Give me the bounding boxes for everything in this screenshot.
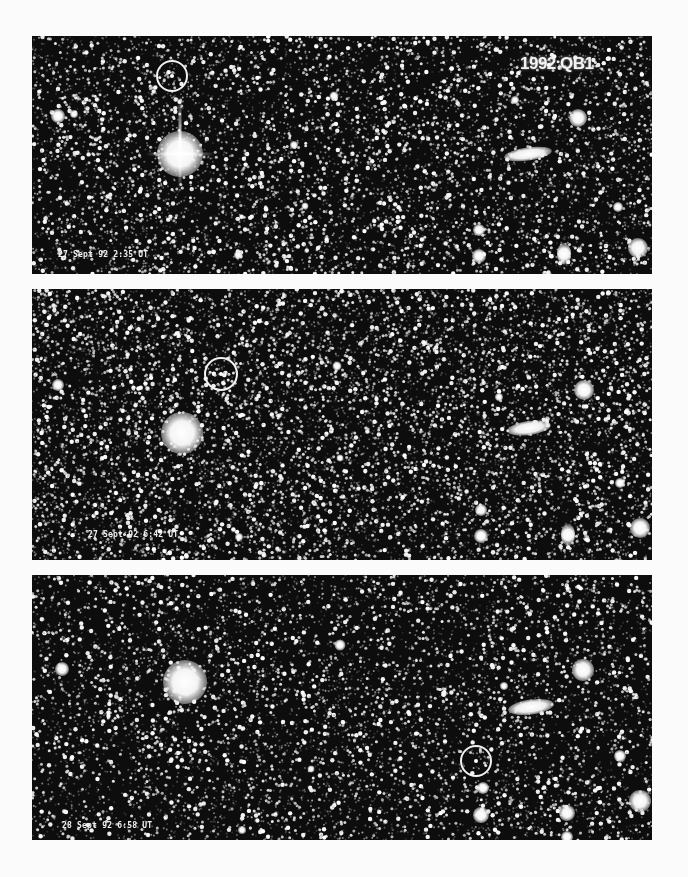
star-object [559,805,575,821]
star-object [500,682,508,690]
star-object [615,478,625,488]
star-field [32,575,652,840]
target-circle-marker [204,357,238,391]
star-object [234,251,242,259]
star-object [70,110,78,118]
object-name-label: 1992 QB1 [520,54,594,74]
star-object [238,826,246,834]
star-object [574,380,594,400]
star-object [52,379,64,391]
star-object [335,640,346,651]
observation-timestamp: 27 Sept 92 2:35 UT [58,250,148,259]
star-object [628,238,648,258]
star-object [475,504,487,516]
star-object [613,202,623,212]
star-object [477,782,489,794]
star-object [630,518,650,538]
star-object [302,203,309,210]
star-object [290,141,298,149]
observation-timestamp: 28 Sept 92 6:58 UT [62,821,152,830]
star-object [572,659,594,681]
star-object [473,807,489,823]
star-object [614,750,626,762]
asteroid-discovery-figure: 27 Sept 92 2:35 UT1992 QB1 27 Sept 92 6:… [0,0,688,877]
star-object [569,109,587,127]
star-object [333,362,342,371]
observation-timestamp: 27 Sept 92 6:42 UT [88,530,178,539]
star-field [32,289,652,560]
star-object [629,790,651,812]
star-object [55,662,69,676]
diffraction-spike [179,96,182,193]
star-object [473,224,485,236]
star-object [474,529,488,543]
star-object [337,455,344,462]
star-object [330,92,339,101]
sky-panel-2: 27 Sept 92 6:42 UT [32,289,652,560]
star-object [561,831,573,840]
bright-star [163,660,207,704]
star-object [51,109,65,123]
star-object [495,393,503,401]
star-object [511,96,519,104]
bright-star [161,412,203,454]
star-object [235,533,243,541]
target-circle-marker [156,60,188,92]
target-circle-marker [460,745,492,777]
diffraction-spike [146,153,215,156]
star-object [472,249,486,263]
sky-panel-1: 27 Sept 92 2:35 UT1992 QB1 [32,36,652,274]
sky-panel-3: 28 Sept 92 6:58 UT [32,575,652,840]
star-object [308,766,315,773]
